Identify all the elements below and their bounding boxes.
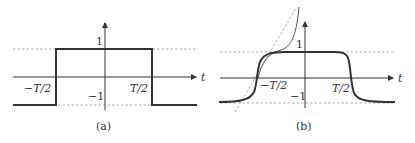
caption-a: (a)	[96, 120, 111, 133]
label-1: 1	[96, 35, 103, 48]
t-axis-label: t	[201, 71, 206, 84]
label-minus-1: −1	[290, 90, 306, 103]
caption-b: (b)	[296, 120, 312, 133]
figure: t 1 −1 −T/2 T/2 (a) t 1 −1 −T/2 T/2 (b)	[0, 0, 415, 143]
panel-a: t 1 −1 −T/2 T/2 (a)	[13, 23, 206, 133]
label-T-half: T/2	[332, 82, 350, 95]
label-minus-T-half: −T/2	[24, 82, 51, 95]
t-axis-label: t	[398, 72, 403, 85]
panel-b: t 1 −1 −T/2 T/2 (b)	[219, 7, 403, 133]
label-minus-T-half: −T/2	[260, 79, 287, 92]
label-T-half: T/2	[130, 82, 148, 95]
thin-curve	[258, 7, 299, 78]
label-1: 1	[296, 38, 303, 51]
label-minus-1: −1	[88, 90, 104, 103]
